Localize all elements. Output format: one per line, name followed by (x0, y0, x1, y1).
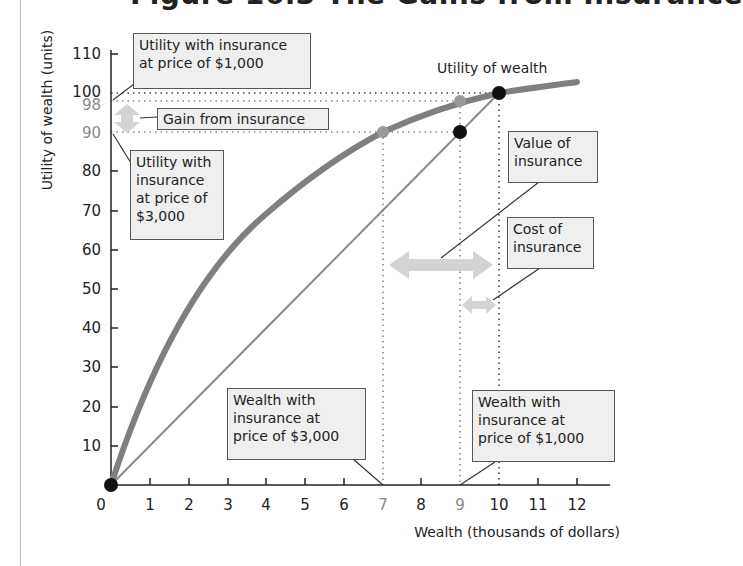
x-tick-1: 1 (145, 496, 155, 514)
cost-line2: insurance (513, 238, 588, 256)
x-tick-4: 4 (261, 496, 271, 514)
x-tick-11: 11 (528, 496, 547, 514)
cost-line1: Cost of (513, 220, 588, 238)
figure-title: Figure 16.3 The Gains from Insurance (130, 0, 743, 11)
x-tick-8: 8 (416, 496, 426, 514)
x-tick-0: 0 (96, 496, 106, 514)
y-tick-110: 110 (72, 45, 101, 63)
util-1000-line2: at price of $1,000 (139, 54, 305, 72)
value-box: Value of insurance (508, 131, 598, 183)
point-9-98 (454, 95, 466, 107)
wealth-1000-box: Wealth with insurance at price of $1,000 (472, 390, 615, 462)
wealth-3000-box: Wealth with insurance at price of $3,000 (227, 388, 366, 460)
point-10-100 (492, 86, 506, 100)
x-tick-2: 2 (184, 496, 194, 514)
value-line2: insurance (514, 152, 592, 170)
util-3000-box: Utility with insurance at price of $3,00… (130, 150, 224, 240)
x-tick-12: 12 (567, 496, 586, 514)
wealth-1000-line2: insurance at (478, 411, 609, 429)
util-3000-line4: $3,000 (136, 207, 218, 225)
y-tick-20: 20 (82, 398, 101, 416)
point-origin (104, 478, 118, 492)
x-tick-5: 5 (300, 496, 310, 514)
x-tick-3: 3 (223, 496, 233, 514)
y-tick-90: 90 (82, 124, 101, 142)
util-3000-line2: insurance (136, 171, 218, 189)
y-tick-10: 10 (82, 437, 101, 455)
util-1000-line1: Utility with insurance (139, 36, 305, 54)
wealth-1000-line3: price of $1,000 (478, 429, 609, 447)
curve-label: Utility of wealth (437, 60, 547, 76)
util-1000-box: Utility with insurance at price of $1,00… (133, 33, 311, 89)
x-tick-9: 9 (455, 496, 465, 514)
y-tick-60: 60 (82, 241, 101, 259)
wealth-1000-line1: Wealth with (478, 393, 609, 411)
wealth-3000-line3: price of $3,000 (233, 427, 360, 445)
y-tick-40: 40 (82, 319, 101, 337)
y-axis-title: Utility of wealth (units) (39, 30, 55, 190)
point-7-90 (377, 126, 389, 138)
cost-of-insurance-arrow (462, 296, 496, 314)
gain-box: Gain from insurance (157, 108, 329, 130)
x-axis-title: Wealth (thousands of dollars) (414, 524, 620, 540)
y-tick-70: 70 (82, 202, 101, 220)
gain-label: Gain from insurance (163, 110, 323, 128)
y-tick-50: 50 (82, 280, 101, 298)
x-tick-labels: 0 1 2 3 4 5 6 7 8 9 10 11 12 (96, 496, 586, 514)
y-tick-100: 100 (72, 83, 101, 101)
util-3000-line1: Utility with (136, 153, 218, 171)
wealth-3000-line2: insurance at (233, 409, 360, 427)
x-tick-7: 7 (378, 496, 388, 514)
util-3000-line3: at price of (136, 189, 218, 207)
y-tick-30: 30 (82, 358, 101, 376)
y-tick-80: 80 (82, 162, 101, 180)
x-tick-6: 6 (339, 496, 349, 514)
value-of-insurance-arrow (389, 251, 493, 279)
x-tick-10: 10 (489, 496, 508, 514)
value-line1: Value of (514, 134, 592, 152)
cost-box: Cost of insurance (507, 217, 594, 269)
y-tick-labels: 10 20 30 40 50 60 70 80 90 98 100 110 (72, 45, 101, 455)
wealth-3000-line1: Wealth with (233, 391, 360, 409)
point-9-90 (453, 125, 467, 139)
